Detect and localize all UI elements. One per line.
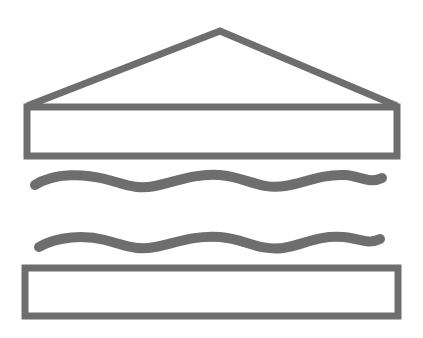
shelter-water-icon [0,0,423,338]
roof-icon [27,31,397,106]
wave-line-1 [35,175,382,188]
lower-box [25,268,398,316]
upper-box [27,107,397,156]
wave-line-2 [39,237,380,249]
